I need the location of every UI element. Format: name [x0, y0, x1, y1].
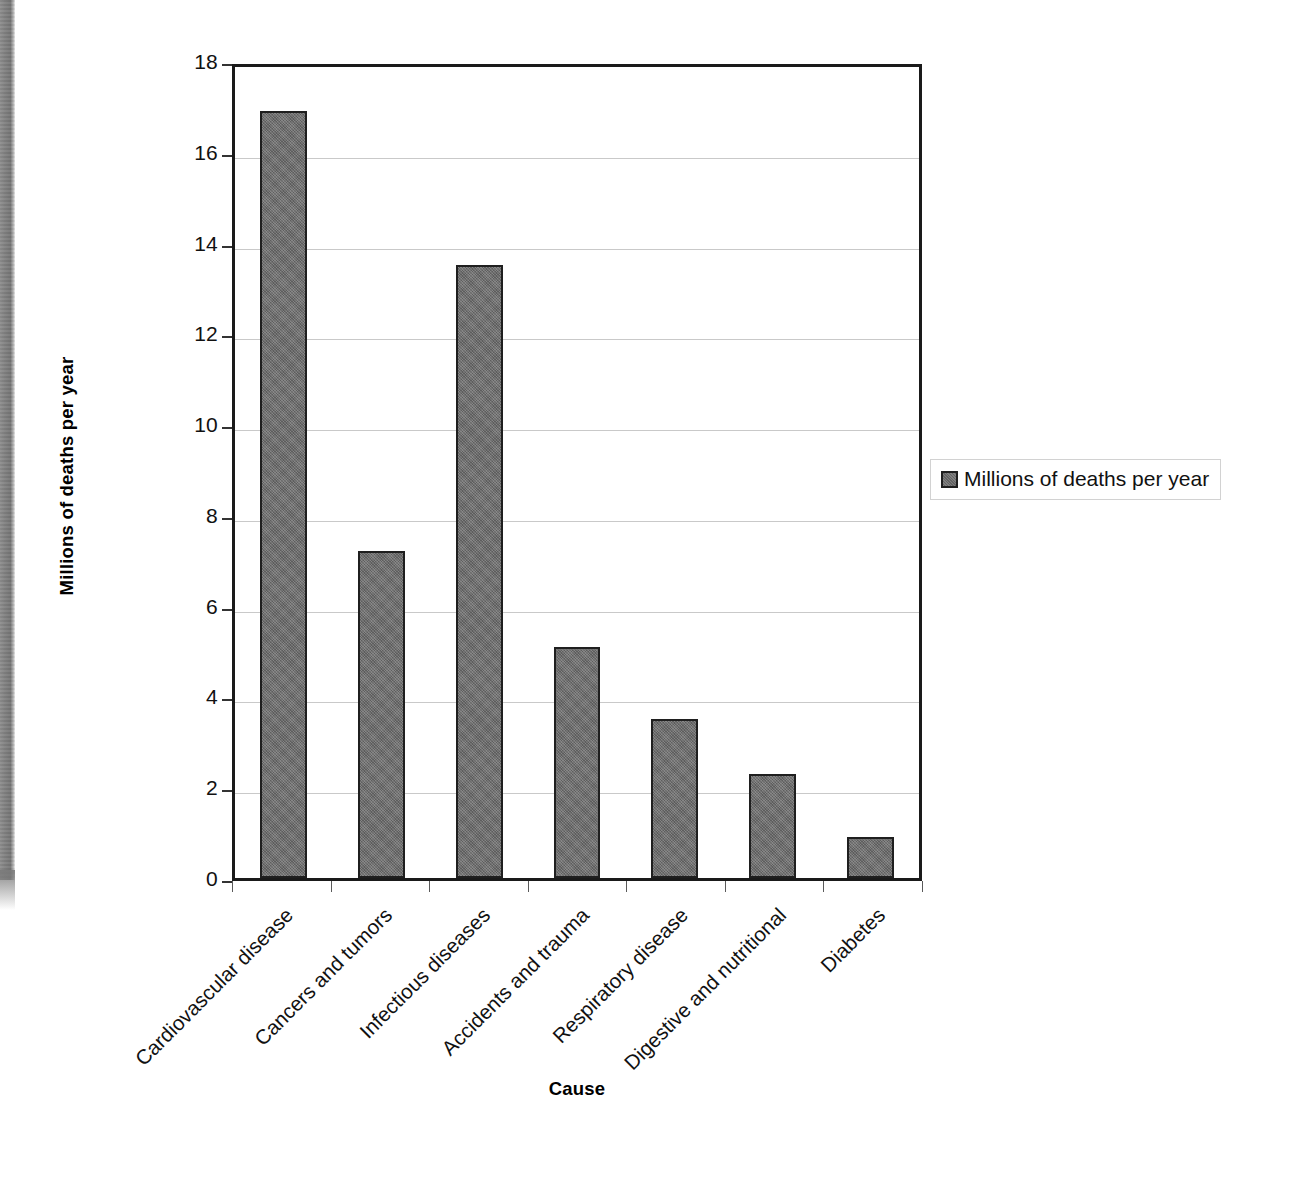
x-axis-tick-mark — [626, 881, 627, 892]
bar-slot — [430, 67, 528, 878]
y-axis-tick-label: 10 — [150, 413, 218, 437]
y-axis-tick-label: 0 — [150, 867, 218, 891]
y-axis-tick-label: 14 — [150, 232, 218, 256]
x-axis-title: Cause — [232, 1078, 922, 1100]
y-axis-tick-mark — [222, 64, 232, 66]
y-axis-tick-label: 4 — [150, 685, 218, 709]
bar — [358, 551, 405, 878]
bar — [749, 774, 796, 878]
x-axis-tick-mark — [922, 881, 923, 892]
bar — [260, 111, 307, 878]
x-axis-tick-mark — [232, 881, 233, 892]
legend-label: Millions of deaths per year — [964, 467, 1209, 491]
chart-legend: Millions of deaths per year — [930, 459, 1221, 500]
x-axis-tick-mark — [823, 881, 824, 892]
y-axis-tick-mark — [222, 699, 232, 701]
y-axis-tick-mark — [222, 881, 232, 883]
y-axis-tick-mark — [222, 246, 232, 248]
bar — [456, 265, 503, 878]
y-axis-tick-label: 6 — [150, 595, 218, 619]
x-axis-tick-mark — [331, 881, 332, 892]
y-axis-tick-label: 2 — [150, 776, 218, 800]
bar-slot — [626, 67, 724, 878]
y-axis-tick-label: 18 — [150, 50, 218, 74]
y-axis-tick-label: 16 — [150, 141, 218, 165]
y-axis-tick-mark — [222, 427, 232, 429]
bar-slot — [333, 67, 431, 878]
plot-area — [232, 64, 922, 881]
x-axis-tick-mark — [528, 881, 529, 892]
bar-chart: Millions of deaths per year 024681012141… — [0, 0, 1293, 1187]
bar-series — [235, 67, 919, 878]
bar-slot — [528, 67, 626, 878]
bar-slot — [724, 67, 822, 878]
bar-slot — [821, 67, 919, 878]
y-axis-tick-mark — [222, 790, 232, 792]
y-axis-title: Millions of deaths per year — [56, 346, 78, 606]
x-axis-tick-mark — [429, 881, 430, 892]
x-axis-tick-mark — [725, 881, 726, 892]
y-axis-tick-mark — [222, 609, 232, 611]
bar — [554, 647, 601, 878]
bar-slot — [235, 67, 333, 878]
bar — [847, 837, 894, 878]
y-axis-tick-label: 8 — [150, 504, 218, 528]
y-axis-tick-mark — [222, 155, 232, 157]
y-axis-tick-mark — [222, 518, 232, 520]
bar — [651, 719, 698, 878]
legend-swatch-icon — [941, 471, 958, 488]
y-axis-tick-mark — [222, 336, 232, 338]
y-axis-tick-label: 12 — [150, 322, 218, 346]
